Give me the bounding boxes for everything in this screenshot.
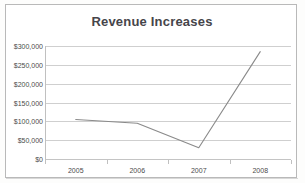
- x-axis-tick: [107, 160, 108, 164]
- chart-screenshot: Revenue Increases $0$50,000$100,000$150,…: [0, 0, 305, 183]
- y-axis-tick-label: $150,000: [0, 99, 43, 106]
- x-axis-tick: [230, 160, 231, 164]
- x-axis-tick: [291, 160, 292, 164]
- y-axis-tick-label: $300,000: [0, 43, 43, 50]
- y-axis-tick-label: $100,000: [0, 118, 43, 125]
- x-axis-tick-label: 2005: [68, 167, 84, 174]
- x-axis-tick-label: 2008: [252, 167, 268, 174]
- y-axis-tick-label: $200,000: [0, 80, 43, 87]
- series-line-revenue: [76, 52, 261, 148]
- y-axis-tick-label: $250,000: [0, 61, 43, 68]
- x-axis-tick: [168, 160, 169, 164]
- x-axis-tick: [45, 160, 46, 164]
- frame-shadow: [6, 178, 298, 179]
- chart-title: Revenue Increases: [6, 14, 298, 29]
- y-axis-labels: $0$50,000$100,000$150,000$200,000$250,00…: [6, 46, 43, 159]
- x-axis-tick-label: 2006: [129, 167, 145, 174]
- y-axis-tick-label: $50,000: [0, 137, 43, 144]
- x-axis-tick-label: 2007: [191, 167, 207, 174]
- revenue-line-series: [45, 46, 291, 159]
- chart-frame: Revenue Increases $0$50,000$100,000$150,…: [5, 4, 297, 178]
- y-axis-tick-label: $0: [0, 156, 43, 163]
- x-axis-ticks: [45, 160, 292, 165]
